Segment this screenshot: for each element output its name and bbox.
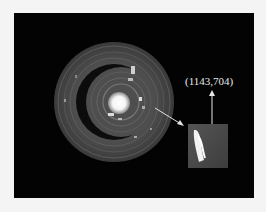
- diffraction-rings: [54, 42, 174, 162]
- magnified-inset: [188, 124, 228, 168]
- coordinate-arrow: [209, 90, 215, 124]
- diffraction-figure: [0, 0, 266, 212]
- coordinate-label: (1143,704): [185, 75, 233, 87]
